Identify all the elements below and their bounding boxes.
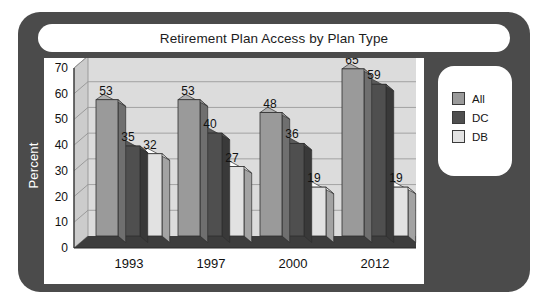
bar-value-label: 27 — [225, 151, 239, 165]
x-axis-category-label: 1993 — [115, 256, 144, 271]
y-axis-tick-label: 30 — [55, 164, 69, 178]
legend-item-dc[interactable]: DC — [452, 111, 489, 124]
x-axis-category-label: 2000 — [279, 256, 308, 271]
bar-value-label: 59 — [367, 68, 381, 82]
bar-value-label: 19 — [389, 171, 403, 185]
bar-value-label: 19 — [307, 171, 321, 185]
bar-value-label: 40 — [203, 117, 217, 131]
bar-chart-plot: 0102030405060701993199720002012323553274… — [44, 58, 424, 284]
bar-value-label: 48 — [263, 97, 277, 111]
legend-panel: AllDCDB — [438, 66, 512, 176]
legend-items: AllDCDB — [452, 92, 489, 143]
legend-item-db[interactable]: DB — [452, 130, 489, 143]
legend-item-label: All — [472, 93, 485, 105]
bar-2012-All[interactable] — [342, 63, 372, 242]
y-axis-tick-label: 60 — [55, 87, 69, 101]
legend-item-label: DC — [472, 112, 489, 124]
y-axis-tick-label: 10 — [55, 215, 69, 229]
legend-item-label: DB — [472, 131, 488, 143]
y-axis-title-label: Percent — [26, 142, 41, 188]
bar-value-label: 53 — [181, 84, 195, 98]
x-axis-category-label: 1997 — [197, 256, 226, 271]
y-axis-tick-label: 40 — [55, 138, 69, 152]
bar-value-label: 35 — [121, 130, 135, 144]
y-axis-title: Percent — [22, 120, 44, 210]
legend-swatch-icon — [452, 111, 465, 124]
bar-value-label: 32 — [143, 138, 157, 152]
y-axis-tick-label: 20 — [55, 190, 69, 204]
y-axis-tick-label: 50 — [55, 112, 69, 126]
chart-screenshot: Retirement Plan Access by Plan Type Perc… — [0, 0, 544, 303]
page-title: Retirement Plan Access by Plan Type — [160, 31, 388, 46]
bar-value-label: 65 — [345, 58, 359, 67]
bar-1993-All[interactable] — [96, 94, 126, 242]
legend-item-all[interactable]: All — [452, 92, 489, 105]
legend-swatch-icon — [452, 92, 465, 105]
chart-canvas: 0102030405060701993199720002012323553274… — [44, 58, 424, 284]
chart-title-pill: Retirement Plan Access by Plan Type — [38, 24, 510, 52]
bar-value-label: 36 — [285, 127, 299, 141]
y-axis-tick-label: 0 — [61, 241, 68, 255]
x-axis-category-label: 2012 — [361, 256, 390, 271]
legend-swatch-icon — [452, 130, 465, 143]
y-axis-tick-label: 70 — [55, 61, 69, 75]
bar-value-label: 53 — [99, 84, 113, 98]
